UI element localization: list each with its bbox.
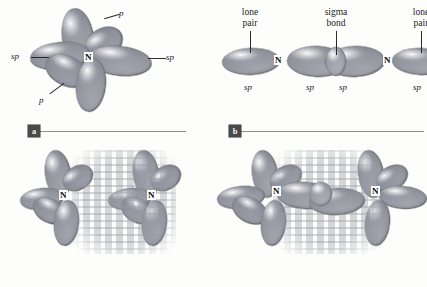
bond-region-texture-c [72,150,176,254]
label-lone-pair-right-line1: lone [391,7,427,18]
pi-overlap-blob [310,182,332,206]
label-sp-inner-left: sp [306,82,314,93]
panel-a: N p sp sp p a [0,0,213,144]
leader-line-p-lower [49,83,64,94]
label-sp-outer-right: sp [413,82,421,93]
panel-b-badge: b [229,125,241,137]
label-p-lower: p [39,95,44,106]
label-lone-pair-left-line2: pair [220,18,280,29]
label-lone-pair-right-line2: pair [391,18,427,29]
panel-d: N N d [213,144,427,287]
atom-label-n-left: N [59,190,68,200]
atom-label-n-left: N [274,55,283,65]
panel-b: N N lone pair sigma bond lone pair sp sp… [213,0,427,144]
orbital-hybridization-figure: N p sp sp p a N N lone pair [0,0,427,287]
label-sp-outer-left: sp [244,82,252,93]
label-sigma-bond-line2: bond [306,18,366,29]
leader-line-sp-left [31,57,49,58]
atom-label-n-right: N [383,55,392,65]
sp-lone-pair-lobe-left [222,47,281,76]
leader-line-sp-right [148,58,166,59]
label-sp-inner-right: sp [339,82,347,93]
label-lone-pair-right: lone pair [391,7,427,28]
label-lone-pair-left: lone pair [220,7,280,28]
label-p-upper: p [119,8,124,19]
panel-a-badge: a [28,125,40,137]
atom-label-n-left: N [272,186,281,196]
leader-line-p-upper [104,14,120,19]
panel-b-rule [229,131,424,132]
label-sigma-bond: sigma bond [306,7,366,28]
atom-label-n: N [84,52,93,62]
atom-label-n-right: N [147,190,156,200]
label-sp-left: sp [11,51,19,62]
panel-c: N N c [0,144,213,287]
panel-a-rule [28,131,186,132]
label-sp-right: sp [166,52,174,63]
label-lone-pair-left-line1: lone [220,7,280,18]
leader-line-lone-pair-left [250,31,251,53]
leader-line-lone-pair-right [421,31,422,53]
atom-label-n-right: N [371,186,380,196]
leader-line-sigma-bond [336,31,337,55]
label-sigma-bond-line1: sigma [306,7,366,18]
